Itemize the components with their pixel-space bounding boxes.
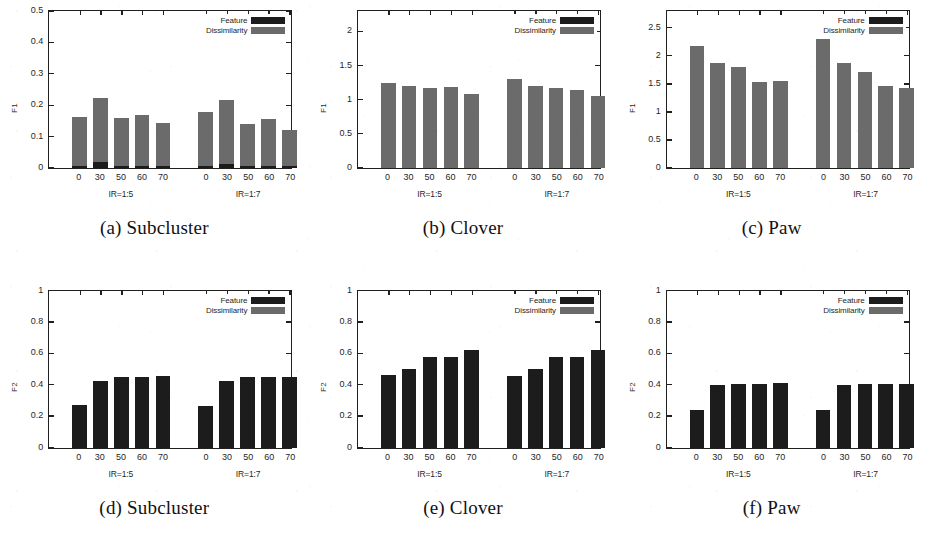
plot-area: F100.511.522.5FeatureDissimilarity030506… — [622, 0, 922, 215]
plot-frame: 00.20.40.60.81FeatureDissimilarity — [357, 290, 601, 449]
y-axis-tick-label: 1.5 — [339, 60, 352, 70]
x-axis-group-labels: IR=1:5IR=1:7 — [357, 469, 601, 483]
x-axis-tick-label: 0 — [76, 172, 81, 182]
y-axis-tick-label: 0 — [347, 442, 352, 452]
bar-feature — [261, 377, 276, 447]
y-axis-tick-label: 0.2 — [31, 410, 44, 420]
bar-dissimilarity — [282, 130, 297, 168]
x-axis-tick-label: 0 — [204, 172, 209, 182]
y-axis-tick-label: 0.5 — [648, 134, 661, 144]
bar-dissimilarity — [114, 118, 129, 168]
bar-dissimilarity — [549, 88, 564, 168]
y-axis-title: F2 — [11, 382, 20, 392]
x-axis-group-labels: IR=1:5IR=1:7 — [666, 189, 910, 203]
bar-feature — [219, 381, 234, 447]
panel-caption: (b) Clover — [423, 217, 504, 239]
plot-frame: 00.511.522.5FeatureDissimilarity — [666, 10, 910, 169]
x-axis-tick-label: 50 — [733, 172, 743, 182]
y-axis-tick-label: 0.2 — [339, 410, 352, 420]
y-axis-tick-label: 0.4 — [648, 379, 661, 389]
legend-entry-dissimilarity: Dissimilarity — [206, 306, 285, 315]
legend-swatch-feature — [251, 297, 285, 304]
legend-label: Feature — [838, 16, 865, 25]
bar-feature — [858, 384, 873, 447]
bar-dissimilarity — [570, 90, 585, 169]
legend-label: Feature — [220, 16, 247, 25]
x-axis-tick-label: 50 — [116, 452, 126, 462]
bar-dissimilarity — [198, 112, 213, 168]
bar-feature — [72, 166, 87, 168]
x-axis-tick-label: 50 — [860, 172, 870, 182]
x-axis-group-label: IR=1:7 — [853, 469, 878, 479]
x-axis-tick-label: 60 — [573, 452, 583, 462]
bar-feature — [837, 385, 852, 447]
x-axis-group-label: IR=1:5 — [726, 469, 751, 479]
x-axis-tick-label: 50 — [243, 452, 253, 462]
plot-area: F200.20.40.60.81FeatureDissimilarity0305… — [313, 280, 613, 495]
y-axis-tick-label: 0.4 — [339, 379, 352, 389]
y-axis-tick-label: 1 — [347, 285, 352, 295]
legend-entry-feature: Feature — [206, 16, 285, 25]
legend-swatch-dissimilarity — [251, 27, 285, 34]
legend-swatch-feature — [560, 297, 594, 304]
bar-dissimilarity — [261, 119, 276, 168]
x-axis-tick-label: 70 — [158, 172, 168, 182]
bar-feature — [261, 166, 276, 168]
legend-swatch-dissimilarity — [560, 307, 594, 314]
y-axis-tick-label: 0.8 — [648, 316, 661, 326]
x-axis-tick-label: 0 — [694, 452, 699, 462]
bar-dissimilarity — [528, 86, 543, 168]
plot-area: F100.10.20.30.40.5FeatureDissimilarity03… — [4, 0, 304, 215]
y-axis-tick-label: 0.8 — [31, 316, 44, 326]
x-axis-tick-label: 70 — [903, 172, 913, 182]
bar-dissimilarity — [135, 115, 150, 168]
y-axis-tick-label: 0 — [38, 162, 43, 172]
legend-swatch-dissimilarity — [869, 307, 903, 314]
x-axis-tick-label: 30 — [95, 452, 105, 462]
x-axis-tick-label: 60 — [446, 452, 456, 462]
x-axis-tick-label: 60 — [137, 452, 147, 462]
bar-feature — [93, 162, 108, 168]
x-axis-tick-label: 70 — [594, 172, 604, 182]
chart-panel: F200.20.40.60.81FeatureDissimilarity0305… — [309, 280, 618, 559]
bar-feature — [752, 384, 767, 448]
bar-feature — [773, 383, 788, 447]
bar-dissimilarity — [219, 100, 234, 168]
plot-frame: 00.20.40.60.81FeatureDissimilarity — [666, 290, 910, 449]
x-axis-tick-label: 30 — [839, 172, 849, 182]
x-axis-tick-label: 70 — [285, 452, 295, 462]
x-axis-tick-label: 70 — [775, 452, 785, 462]
x-axis-tick-label: 70 — [775, 172, 785, 182]
bar-feature — [135, 166, 150, 168]
legend-label: Feature — [220, 296, 247, 305]
x-axis-group-label: IR=1:7 — [544, 469, 569, 479]
legend-entry-dissimilarity: Dissimilarity — [515, 26, 594, 35]
y-axis-title: F1 — [319, 103, 328, 113]
x-axis-tick-label: 60 — [446, 172, 456, 182]
x-axis-tick-label: 70 — [594, 452, 604, 462]
bar-dissimilarity — [381, 83, 396, 168]
y-axis-tick-label: 0.5 — [339, 128, 352, 138]
x-axis-group-label: IR=1:5 — [109, 189, 134, 199]
legend-swatch-feature — [251, 17, 285, 24]
x-axis-tick-label: 0 — [512, 172, 517, 182]
legend: FeatureDissimilarity — [511, 294, 597, 317]
x-axis-tick-label: 0 — [385, 172, 390, 182]
x-axis-labels: 030506070030506070 — [357, 172, 601, 186]
bar-feature — [878, 384, 893, 448]
legend-label: Dissimilarity — [206, 26, 247, 35]
x-axis-tick-label: 60 — [882, 452, 892, 462]
x-axis-tick-label: 30 — [712, 172, 722, 182]
bar-feature — [816, 410, 831, 448]
legend: FeatureDissimilarity — [819, 14, 905, 37]
x-axis-tick-label: 50 — [552, 452, 562, 462]
bar-feature — [402, 369, 417, 448]
y-axis-tick-label: 2 — [656, 50, 661, 60]
legend-swatch-dissimilarity — [560, 27, 594, 34]
legend-swatch-feature — [869, 17, 903, 24]
bar-feature — [72, 405, 87, 447]
legend-entry-feature: Feature — [206, 296, 285, 305]
bar-dissimilarity — [858, 72, 873, 168]
x-axis-group-label: IR=1:5 — [726, 189, 751, 199]
y-axis-tick-label: 0.3 — [31, 68, 44, 78]
